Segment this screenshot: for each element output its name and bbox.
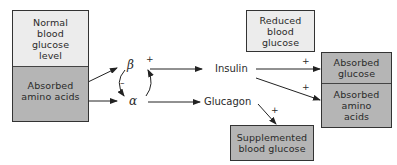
absorbed-glucose-cell: Absorbed glucose [322,53,391,83]
beta-plus-sign: + [146,55,154,64]
supplemented-line-2: blood glucose [238,143,305,154]
reduced-line-2: blood [267,26,294,37]
insulin-glucose-plus-sign: + [302,57,310,66]
supplemented-blood-glucose-cell: Supplemented blood glucose [231,126,313,160]
right-amino-line-3: acids [344,111,369,122]
right-amino-line-1: Absorbed [334,89,380,100]
absorbed-glucose-line-1: Absorbed [334,57,380,68]
inhibit-minus-sign: – [120,79,125,88]
reduced-blood-glucose-cell: Reduced blood glucose [247,11,314,51]
supplemented-line-1: Supplemented [237,132,308,143]
insulin-amino-plus-sign: + [302,83,310,92]
normal-blood-glucose-cell: Normal blood glucose level [13,11,88,66]
reduced-blood-glucose-box: Reduced blood glucose [246,10,315,52]
arrow-alpha-to-beta-stimulate [146,70,151,96]
right-amino-line-2: amino [341,100,371,111]
alpha-cell-label: α [129,94,137,108]
right-box: Absorbed glucose Absorbed amino acids [321,52,392,128]
arrow-insulin-to-amino [256,78,320,100]
absorbed-amino-acids-cell-right: Absorbed amino acids [322,83,391,127]
supplemented-blood-glucose-box: Supplemented blood glucose [230,125,314,161]
beta-cell-label: β [127,58,134,72]
glucagon-plus-sign: + [271,106,279,115]
glucagon-label: Glucagon [204,96,251,108]
absorbed-glucose-line-2: glucose [338,68,375,79]
left-amino-line-1: Absorbed [28,80,74,91]
normal-line-3: glucose [32,39,69,50]
reduced-line-1: Reduced [260,15,302,26]
normal-line-2: blood [37,28,64,39]
left-amino-line-2: amino acids [21,91,79,102]
arrow-amino-to-beta [88,68,117,82]
insulin-label: Insulin [215,63,248,75]
reduced-line-3: glucose [262,37,299,48]
left-box: Normal blood glucose level Absorbed amin… [12,10,89,122]
normal-line-1: Normal [33,17,68,28]
normal-line-4: level [39,50,62,61]
absorbed-amino-acids-cell-left: Absorbed amino acids [13,66,88,121]
